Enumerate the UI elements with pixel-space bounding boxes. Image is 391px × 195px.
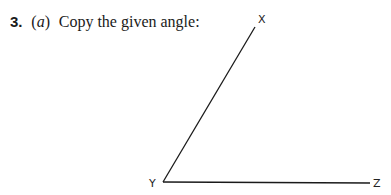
ray-yz — [163, 182, 370, 183]
label-y: Y — [148, 177, 156, 190]
label-z: Z — [373, 177, 381, 190]
ray-yx — [163, 27, 255, 182]
angle-figure: X Y Z — [0, 0, 391, 195]
label-x: X — [258, 13, 266, 26]
